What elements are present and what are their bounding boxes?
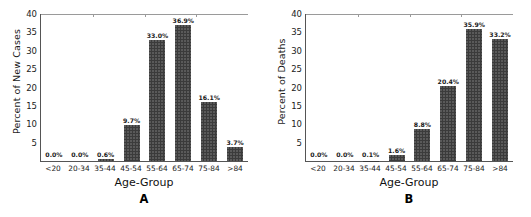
bar-b-4[interactable]: 8.8% [414,129,430,161]
y-tick-a-40: 40 [26,9,41,19]
bar-value-label-b-3: 1.6% [388,147,405,154]
y-tick-b-10: 10 [291,119,306,129]
x-axis-title-b: Age-Group [305,176,513,189]
y-tick-a-30: 30 [26,46,41,56]
y-tick-a-35: 35 [26,27,41,37]
bar-slot-a-2: 0.6% [93,14,119,161]
bar-slot-a-1: 0.0% [67,14,93,161]
plot-area-b: 40 35 30 25 20 15 10 5 0.0% 0.0% [305,14,513,162]
bar-slot-b-4: 8.8% [410,14,436,161]
panel-letter-b: B [305,192,513,206]
bar-slot-a-6: 16.1% [196,14,222,161]
y-axis-title-a: Percent of New Cases [8,0,24,163]
bar-a-6[interactable]: 16.1% [201,102,217,161]
y-tick-a-5: 5 [32,138,41,148]
two-panel-bar-figure: Percent of New Cases 40 35 30 25 20 15 1… [0,0,531,217]
x-axis-title-a: Age-Group [40,176,248,189]
y-tick-a-25: 25 [26,64,41,74]
x-tick-b-4: 55-64 [409,164,435,173]
bar-value-label-b-6: 35.9% [463,21,484,28]
bar-value-label-a-6: 16.1% [198,94,219,101]
y-tick-a-10: 10 [26,119,41,129]
bar-a-7[interactable]: 3.7% [227,147,243,161]
y-tick-b-5: 5 [297,138,306,148]
bar-value-label-b-4: 8.8% [414,121,431,128]
bar-value-label-b-7: 33.2% [489,31,510,38]
bar-value-label-a-5: 36.9% [173,17,194,24]
x-tick-a-0: <20 [40,164,66,173]
x-tick-b-2: 35-44 [357,164,383,173]
y-axis-title-b: Percent of Deaths [273,0,289,163]
x-tick-b-3: 45-54 [383,164,409,173]
bar-value-label-b-5: 20.4% [438,78,459,85]
x-tick-a-4: 55-64 [144,164,170,173]
bar-slot-a-4: 33.0% [145,14,171,161]
bar-value-label-a-7: 3.7% [226,139,243,146]
bar-a-2[interactable]: 0.6% [98,159,114,161]
bar-a-5[interactable]: 36.9% [175,25,191,161]
bar-value-label-a-0: 0.0% [45,151,62,158]
x-tick-b-7: >84 [487,164,513,173]
bar-a-3[interactable]: 9.7% [124,125,140,161]
bar-value-label-b-2: 0.1% [362,151,379,158]
plot-area-a: 40 35 30 25 20 15 10 5 0.0% 0.0% [40,14,248,162]
y-tick-a-15: 15 [26,101,41,111]
bar-slot-b-3: 1.6% [384,14,410,161]
panel-letter-a: A [40,192,248,206]
x-tick-a-5: 65-74 [170,164,196,173]
y-tick-b-30: 30 [291,46,306,56]
bar-slot-a-7: 3.7% [222,14,248,161]
panel-b: Percent of Deaths 40 35 30 25 20 15 10 5… [265,0,530,217]
x-tick-b-0: <20 [305,164,331,173]
bar-value-label-a-1: 0.0% [71,151,88,158]
y-tick-a-20: 20 [26,83,41,93]
bar-slot-b-0: 0.0% [306,14,332,161]
x-tick-a-2: 35-44 [92,164,118,173]
bar-slot-b-5: 20.4% [435,14,461,161]
x-tick-labels-b: <20 20-34 35-44 45-54 55-64 65-74 75-84 … [305,164,513,173]
bar-slot-b-6: 35.9% [461,14,487,161]
bar-slot-b-7: 33.2% [487,14,513,161]
x-tick-labels-a: <20 20-34 35-44 45-54 55-64 65-74 75-84 … [40,164,248,173]
x-tick-a-3: 45-54 [118,164,144,173]
bar-b-7[interactable]: 33.2% [492,39,508,161]
bar-series-b: 0.0% 0.0% 0.1% 1.6% [306,14,513,161]
bar-slot-a-0: 0.0% [41,14,67,161]
bar-b-5[interactable]: 20.4% [440,86,456,161]
bar-value-label-a-2: 0.6% [97,151,114,158]
bar-value-label-a-3: 9.7% [123,117,140,124]
x-tick-b-1: 20-34 [331,164,357,173]
bar-slot-a-3: 9.7% [119,14,145,161]
bar-b-6[interactable]: 35.9% [466,29,482,161]
x-tick-a-1: 20-34 [66,164,92,173]
y-tick-b-25: 25 [291,64,306,74]
bar-value-label-b-1: 0.0% [336,151,353,158]
y-tick-b-15: 15 [291,101,306,111]
bar-b-3[interactable]: 1.6% [389,155,405,161]
bar-a-4[interactable]: 33.0% [149,40,165,161]
y-tick-b-40: 40 [291,9,306,19]
x-tick-b-6: 75-84 [461,164,487,173]
y-tick-b-20: 20 [291,83,306,93]
x-tick-a-7: >84 [222,164,248,173]
y-tick-b-35: 35 [291,27,306,37]
bar-slot-b-2: 0.1% [358,14,384,161]
x-tick-a-6: 75-84 [196,164,222,173]
bar-value-label-b-0: 0.0% [310,151,327,158]
x-tick-b-5: 65-74 [435,164,461,173]
bar-series-a: 0.0% 0.0% 0.6% 9.7% [41,14,248,161]
panel-a: Percent of New Cases 40 35 30 25 20 15 1… [0,0,265,217]
bar-slot-a-5: 36.9% [170,14,196,161]
bar-value-label-a-4: 33.0% [147,32,168,39]
bar-slot-b-1: 0.0% [332,14,358,161]
